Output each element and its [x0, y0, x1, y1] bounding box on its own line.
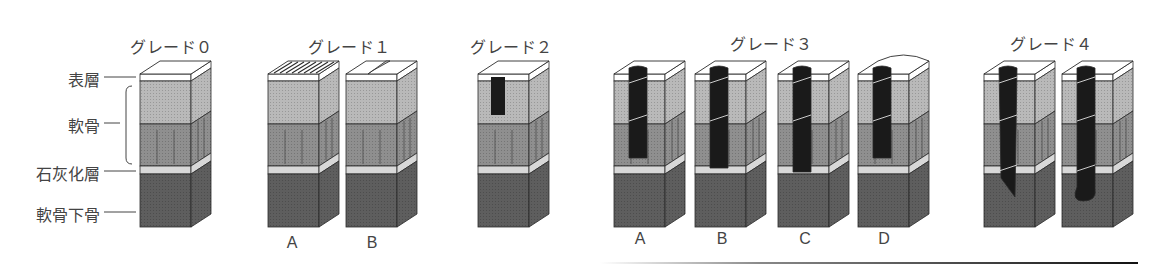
- cartilage-block-deep_b: [695, 61, 766, 227]
- cartilage-block-intact: [140, 61, 211, 227]
- cartilage-grading-diagram: 表層 軟骨 石灰化層 軟骨下骨 グレード０ グレード１ グレード２ グレード３ …: [0, 0, 1154, 264]
- lesion: [1075, 66, 1095, 201]
- cartilage-block-fissure: [346, 61, 417, 227]
- cartilage-block-deep_c: [778, 61, 849, 227]
- grade-4-title: グレード４: [1010, 31, 1093, 55]
- label-surface-layer: 表層: [0, 67, 100, 91]
- lesion: [491, 77, 505, 115]
- lesion: [710, 66, 728, 168]
- cartilage-block-deep_a: [614, 61, 685, 227]
- label-calcified-layer: 石灰化層: [0, 161, 100, 185]
- grade-3-variant-b: B: [712, 230, 732, 248]
- cartilage-block-deep_d: [858, 55, 929, 227]
- grade-3-title: グレード３: [730, 31, 813, 55]
- grade-3-variant-a: A: [630, 230, 650, 248]
- grade-1-variant-a: A: [282, 234, 302, 252]
- lesion: [999, 66, 1017, 197]
- cartilage-block-through_a: [984, 61, 1055, 227]
- grade-3-variant-d: D: [874, 230, 894, 248]
- cartilage-brace: [126, 86, 132, 164]
- cartilage-block-fibrillation: [268, 61, 339, 227]
- grade-0-title: グレード０: [130, 34, 213, 58]
- cartilage-block-shallow: [478, 61, 549, 227]
- label-cartilage: 軟骨: [0, 113, 100, 137]
- cartilage-block-through_b: [1062, 61, 1133, 227]
- grade-1-title: グレード１: [308, 34, 391, 58]
- grade-1-variant-b: B: [362, 234, 382, 252]
- label-subchondral-bone: 軟骨下骨: [0, 202, 100, 226]
- grade-2-title: グレード２: [470, 34, 553, 58]
- grade-3-variant-c: C: [795, 230, 815, 248]
